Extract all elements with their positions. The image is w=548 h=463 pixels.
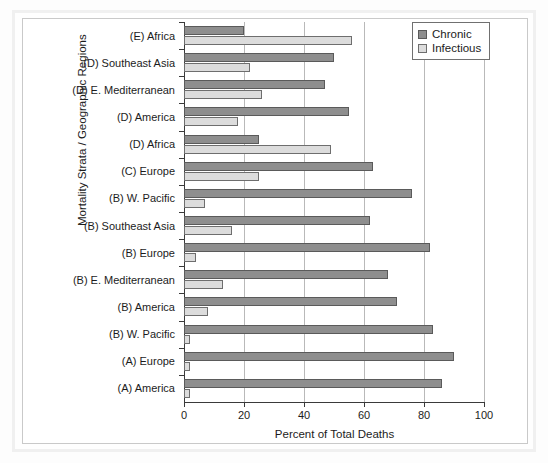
y-axis-tick (179, 76, 184, 77)
y-axis-title: Mortality Strata / Geographic Regions (76, 46, 88, 226)
bar-chronic (184, 352, 454, 361)
y-axis-tick (179, 293, 184, 294)
x-axis-tick-label: 40 (298, 409, 310, 421)
y-axis-tick (179, 131, 184, 132)
chart-row: (B) Europe (184, 239, 484, 266)
y-axis-tick (179, 49, 184, 50)
chart-row: (D) E. Mediterranean (184, 76, 484, 103)
bar-infectious (184, 280, 223, 289)
x-axis-tick (484, 402, 485, 407)
bar-chronic (184, 80, 325, 89)
y-axis-tick-label: (A) Europe (122, 356, 175, 367)
y-axis-tick-label: (D) Southeast Asia (83, 57, 175, 68)
chart-row: (D) Africa (184, 131, 484, 158)
x-axis-title: Percent of Total Deaths (184, 428, 485, 440)
y-axis-tick (179, 239, 184, 240)
y-axis-tick (179, 212, 184, 213)
bar-infectious (184, 199, 205, 208)
x-axis-tick-label: 60 (358, 409, 370, 421)
y-axis-tick-label: (D) America (117, 111, 175, 122)
y-axis-tick (179, 375, 184, 376)
bar-chronic (184, 162, 373, 171)
y-axis-tick-label: (D) E. Mediterranean (72, 84, 175, 95)
x-axis-tick-label: 20 (238, 409, 250, 421)
y-axis-tick-label: (B) Southeast Asia (84, 220, 175, 231)
y-axis-tick-label: (B) W. Pacific (109, 193, 175, 204)
x-axis-tick-label: 0 (181, 409, 187, 421)
x-axis-tick (364, 402, 365, 407)
legend-label-infectious: Infectious (432, 41, 481, 55)
legend-item-chronic: Chronic (418, 27, 481, 41)
bar-chronic (184, 270, 388, 279)
chart-row: (B) Southeast Asia (184, 212, 484, 239)
x-axis-line (184, 402, 485, 403)
chart-row: (A) America (184, 375, 484, 402)
x-axis-tick (244, 402, 245, 407)
y-axis-tick (179, 321, 184, 322)
y-axis-tick (179, 348, 184, 349)
y-axis-tick (179, 185, 184, 186)
x-axis-tick (424, 402, 425, 407)
y-axis-tick-label: (D) Africa (129, 139, 175, 150)
bar-infectious (184, 307, 208, 316)
y-axis-tick (179, 266, 184, 267)
gridline (484, 22, 485, 402)
bar-chronic (184, 243, 430, 252)
chart-legend: Chronic Infectious (412, 22, 490, 60)
x-axis-tick-label: 80 (418, 409, 430, 421)
legend-item-infectious: Infectious (418, 41, 481, 55)
y-axis-tick-label: (B) America (118, 301, 175, 312)
chart-page: Mortality Strata / Geographic Regions (E… (0, 0, 548, 463)
y-axis-tick-label: (C) Europe (121, 166, 175, 177)
y-axis-tick (179, 22, 184, 23)
y-axis-tick-label: (B) E. Mediterranean (73, 274, 175, 285)
y-axis-tick-label: (B) W. Pacific (109, 329, 175, 340)
y-axis-tick-label: (E) Africa (130, 30, 175, 41)
legend-swatch-infectious (418, 44, 427, 53)
x-axis-tick (184, 402, 185, 407)
bar-chronic (184, 107, 349, 116)
bar-chronic (184, 135, 259, 144)
bar-infectious (184, 389, 190, 398)
y-axis-tick (179, 158, 184, 159)
legend-swatch-chronic (418, 30, 427, 39)
bar-chronic (184, 26, 244, 35)
x-axis-tick (304, 402, 305, 407)
bar-chronic (184, 216, 370, 225)
bar-chronic (184, 325, 433, 334)
bar-infectious (184, 117, 238, 126)
legend-label-chronic: Chronic (432, 27, 472, 41)
bar-infectious (184, 90, 262, 99)
chart-row: (B) E. Mediterranean (184, 266, 484, 293)
y-axis-tick (179, 103, 184, 104)
chart-row: (A) Europe (184, 348, 484, 375)
y-axis-tick-label: (B) Europe (122, 247, 175, 258)
bar-chronic (184, 379, 442, 388)
y-axis-tick-label: (A) America (118, 383, 175, 394)
bar-infectious (184, 172, 259, 181)
chart-row: (D) America (184, 103, 484, 130)
chart-row: (B) America (184, 293, 484, 320)
bar-infectious (184, 36, 352, 45)
chart-row: (B) W. Pacific (184, 321, 484, 348)
chart-row: (B) W. Pacific (184, 185, 484, 212)
bar-infectious (184, 145, 331, 154)
bar-chronic (184, 297, 397, 306)
chart-row: (C) Europe (184, 158, 484, 185)
bar-infectious (184, 362, 190, 371)
x-axis-tick-label: 100 (475, 409, 493, 421)
plot-area: (E) Africa(D) Southeast Asia(D) E. Medit… (184, 22, 484, 402)
bar-infectious (184, 226, 232, 235)
bar-infectious (184, 253, 196, 262)
bar-chronic (184, 53, 334, 62)
bar-chronic (184, 189, 412, 198)
bar-infectious (184, 63, 250, 72)
bar-infectious (184, 335, 190, 344)
